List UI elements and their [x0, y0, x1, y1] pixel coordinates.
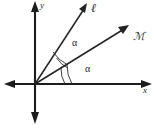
y-axis-group: [31, 1, 39, 124]
ray-m-group: [35, 25, 129, 84]
angle-lower-label: α: [85, 64, 90, 74]
x-axis-group: [4, 80, 152, 88]
y-axis-bottom-arrow-head-icon: [31, 112, 39, 124]
ray-l-label: ℓ: [91, 2, 96, 14]
angle-upper-label: α: [72, 38, 77, 48]
y-axis-label: y: [40, 1, 44, 10]
angle-lower-arc-2: [61, 68, 65, 84]
x-axis-label: x: [143, 86, 147, 95]
x-axis-left-arrow-head-icon: [4, 80, 15, 88]
geometry-figure: y x ℓ ℳ α α: [0, 0, 156, 131]
ray-l-arrow-head-icon: [79, 3, 87, 13]
angle-lower-arc-1: [67, 65, 72, 85]
ray-m-arrow-head-icon: [118, 25, 129, 34]
y-axis-top-arrow-head-icon: [31, 1, 39, 12]
ray-m-label: ℳ: [133, 31, 145, 42]
figure-canvas: [0, 0, 156, 131]
ray-m-line: [35, 29, 124, 84]
